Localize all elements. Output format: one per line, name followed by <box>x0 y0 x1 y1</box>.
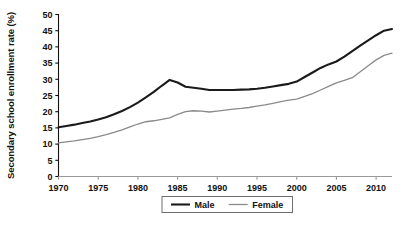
x-tick-label: 2010 <box>366 183 386 193</box>
x-tick-label: 1970 <box>48 183 68 193</box>
x-tick-label: 2000 <box>287 183 307 193</box>
y-tick-label: 40 <box>42 42 52 52</box>
x-tick-label: 1975 <box>88 183 108 193</box>
y-tick-label: 30 <box>42 75 52 85</box>
y-tick-label: 45 <box>42 26 52 36</box>
data-series-group <box>59 29 393 143</box>
series-line-male <box>59 29 393 127</box>
y-tick-label: 10 <box>42 139 52 149</box>
y-tick-label: 25 <box>42 91 52 101</box>
x-tick-label: 2005 <box>326 183 346 193</box>
chart-figure: 0510152025303540455019701975198019851990… <box>0 0 404 225</box>
legend-label-female: Female <box>252 200 283 210</box>
y-tick-label: 15 <box>42 123 52 133</box>
x-tick-label: 1980 <box>128 183 148 193</box>
y-tick-label: 35 <box>42 58 52 68</box>
x-tick-label: 1990 <box>207 183 227 193</box>
y-axis-ticks: 05101520253035404550 <box>42 10 58 182</box>
chart-legend: MaleFemale <box>162 197 293 213</box>
y-tick-label: 20 <box>42 107 52 117</box>
line-chart: 0510152025303540455019701975198019851990… <box>0 0 404 225</box>
x-axis-ticks: 197019751980198519901995200020052010 <box>48 177 386 193</box>
y-tick-label: 50 <box>42 10 52 20</box>
y-tick-label: 0 <box>47 172 52 182</box>
x-tick-label: 1995 <box>247 183 267 193</box>
series-line-female <box>59 53 393 143</box>
legend-label-male: Male <box>195 200 215 210</box>
x-tick-label: 1985 <box>168 183 188 193</box>
y-axis-title: Secondary school enrollment rate (%) <box>5 12 16 179</box>
y-tick-label: 5 <box>47 156 52 166</box>
